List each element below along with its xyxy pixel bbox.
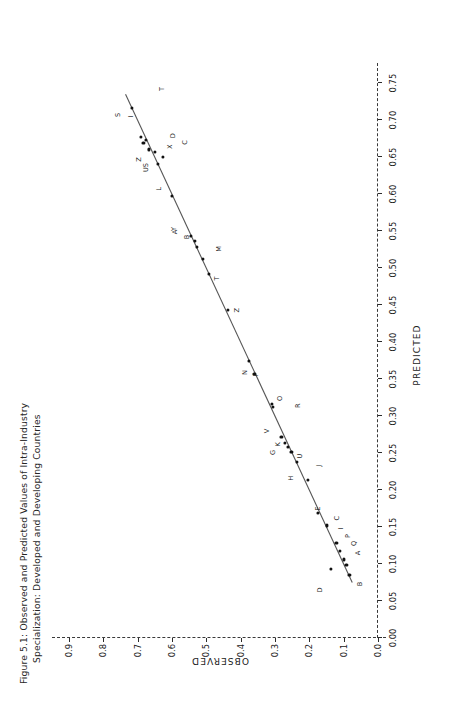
x-tick-label: 0.70	[388, 111, 398, 130]
y-tick	[309, 638, 310, 642]
data-point-label: I	[337, 527, 345, 529]
figure-caption-line-2: Specialization: Developed and Developing…	[31, 403, 44, 684]
y-tick	[206, 638, 207, 642]
x-tick	[378, 304, 382, 305]
scatter-plot: 0.000.050.100.150.200.250.300.350.400.45…	[62, 72, 378, 638]
x-tick-label: 0.15	[388, 518, 398, 537]
x-tick-label: 0.60	[388, 185, 398, 204]
x-tick	[378, 267, 382, 268]
data-point-label: L	[155, 187, 163, 191]
x-tick	[378, 378, 382, 379]
data-point-label: F	[252, 373, 260, 377]
data-point-label: K	[274, 442, 282, 446]
data-point-label: P	[344, 534, 352, 538]
y-tick	[241, 638, 242, 642]
data-point-label: B	[356, 582, 364, 587]
y-tick	[172, 638, 173, 642]
x-tick	[378, 563, 382, 564]
x-tick	[378, 341, 382, 342]
x-tick	[378, 119, 382, 120]
x-tick-label: 0.35	[388, 370, 398, 389]
x-tick	[378, 489, 382, 490]
x-tick-label: 0.45	[388, 296, 398, 315]
x-tick	[378, 193, 382, 194]
data-point-label: X	[166, 144, 174, 149]
figure-caption-line-1: Figure 5.1: Observed and Predicted Value…	[18, 403, 31, 684]
y-tick	[69, 638, 70, 642]
figure-container: Figure 5.1: Observed and Predicted Value…	[0, 0, 462, 712]
y-tick-label: 0.6	[167, 644, 177, 664]
x-tick	[378, 452, 382, 453]
data-point-label: Z	[135, 157, 143, 162]
data-point-label: I	[127, 115, 135, 117]
x-tick-label: 0.50	[388, 259, 398, 278]
data-point-label: Q	[350, 541, 358, 546]
x-tick	[378, 230, 382, 231]
y-tick-label: 0.3	[270, 644, 280, 664]
data-point-label: C	[181, 140, 189, 145]
y-tick	[275, 638, 276, 642]
y-tick	[103, 638, 104, 642]
y-tick	[138, 638, 139, 642]
y-tick-label: 0.2	[304, 644, 314, 664]
data-point-label: T	[213, 276, 221, 280]
data-point-label: J	[315, 465, 323, 467]
data-point-label: N	[241, 370, 249, 375]
x-tick-label: 0.40	[388, 333, 398, 352]
y-tick-label: 0.7	[133, 644, 143, 664]
x-tick	[378, 82, 382, 83]
y-tick-label: 0.0	[373, 644, 383, 664]
regression-line	[62, 72, 378, 638]
y-tick-label: 0.1	[339, 644, 349, 664]
data-point-label: T	[158, 87, 166, 91]
y-axis-label: OBSERVED	[191, 656, 249, 666]
x-tick	[378, 156, 382, 157]
x-tick-label: 0.00	[388, 629, 398, 648]
data-point-label: D	[316, 587, 324, 592]
x-tick-label: 0.20	[388, 481, 398, 500]
data-point-label: M	[215, 246, 223, 252]
data-point-label: G	[269, 450, 277, 455]
data-point-label: U	[296, 454, 304, 459]
x-tick-label: 0.55	[388, 222, 398, 241]
figure-caption: Figure 5.1: Observed and Predicted Value…	[18, 403, 43, 684]
y-tick	[378, 638, 379, 642]
x-tick	[378, 526, 382, 527]
x-tick-label: 0.75	[388, 74, 398, 93]
data-point-label: Z	[233, 308, 241, 313]
data-point-label: O	[276, 396, 284, 401]
data-point-label: V	[263, 429, 271, 434]
x-tick	[378, 600, 382, 601]
x-tick-label: 0.30	[388, 407, 398, 426]
data-point-label: S	[114, 113, 122, 117]
x-tick-label: 0.05	[388, 592, 398, 611]
x-tick-label: 0.10	[388, 555, 398, 574]
data-point-label: R	[294, 403, 302, 408]
data-point-label: US	[142, 163, 150, 172]
data-point-label: E	[314, 506, 322, 510]
figure-rotor: Figure 5.1: Observed and Predicted Value…	[0, 0, 462, 712]
y-tick-label: 0.8	[98, 644, 108, 664]
data-point-label: A	[171, 230, 179, 235]
data-point-label: D	[169, 133, 177, 138]
x-tick-label: 0.25	[388, 444, 398, 463]
data-point-label: H	[287, 476, 295, 481]
x-tick	[378, 415, 382, 416]
x-tick-label: 0.65	[388, 148, 398, 167]
x-axis-label: PREDICTED	[412, 324, 422, 385]
y-tick-label: 0.9	[64, 644, 74, 664]
data-point-label: C	[333, 516, 341, 521]
data-point-label: A	[354, 551, 362, 556]
y-tick	[344, 638, 345, 642]
